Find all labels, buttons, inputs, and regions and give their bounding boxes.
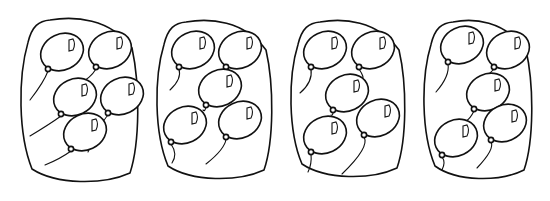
balloon-knot [471, 106, 476, 111]
balloon-body [34, 26, 89, 77]
balloon-string [342, 137, 365, 174]
balloon-group-4 [424, 19, 536, 178]
balloon-body [212, 24, 267, 75]
balloon-string [170, 69, 180, 90]
balloon-string [477, 142, 492, 168]
balloon-string [30, 71, 48, 100]
balloon-icon [345, 24, 400, 79]
balloon-body [94, 70, 149, 121]
balloon-body [165, 24, 220, 75]
balloon-group-2 [157, 20, 272, 178]
balloon-string [171, 144, 175, 163]
balloon-knot [58, 111, 63, 116]
balloon-knot [356, 64, 361, 69]
balloon-knot [176, 64, 181, 69]
balloon-string [436, 64, 448, 92]
balloon-knot [445, 59, 450, 64]
balloon-icon [212, 24, 267, 75]
balloon-icon [480, 24, 535, 77]
balloon-knot [361, 132, 366, 137]
balloon-knot [491, 64, 496, 69]
balloon-icon [78, 24, 138, 84]
balloon-icon [297, 109, 352, 172]
balloon-knot [68, 146, 73, 151]
balloon-icon [45, 106, 113, 165]
balloon-groups-illustration [0, 0, 550, 201]
balloon-knot [439, 152, 444, 157]
balloon-string [30, 116, 61, 136]
balloon-string [442, 157, 444, 170]
balloon-knot [488, 137, 493, 142]
balloon-knot [168, 139, 173, 144]
balloon-string [206, 139, 226, 164]
balloon-knot [330, 107, 335, 112]
balloon-body [345, 24, 400, 75]
balloon-string [466, 111, 474, 121]
balloon-knot [308, 64, 313, 69]
balloon-knot [105, 110, 110, 115]
balloon-body [428, 112, 483, 163]
balloon-worksheet [0, 0, 550, 201]
balloon-string [45, 151, 71, 165]
balloon-icon [428, 112, 483, 170]
balloon-string [300, 69, 311, 93]
balloon-body [480, 24, 535, 75]
balloon-knot [308, 149, 313, 154]
balloon-group-3 [291, 20, 406, 176]
balloon-icon [157, 99, 212, 163]
balloon-knot [203, 102, 208, 107]
balloon-body [434, 19, 489, 70]
balloon-body [297, 24, 352, 75]
balloon-knot [93, 64, 98, 69]
balloon-body [82, 24, 137, 75]
balloon-knot [223, 134, 228, 139]
balloon-knot [45, 66, 50, 71]
balloon-group-1 [21, 18, 150, 181]
balloon-body [297, 109, 352, 160]
